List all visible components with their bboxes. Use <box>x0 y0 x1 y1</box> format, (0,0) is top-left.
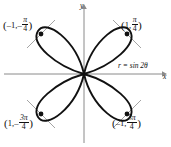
polar-rose-figure: y x r = sin 2θ (–1,–π4) (1,π4) (1,–3π4) … <box>0 0 171 147</box>
fraction-denominator: 4 <box>22 25 28 33</box>
equation-label: r = sin 2θ <box>118 62 148 70</box>
x-axis-label: x <box>163 73 166 81</box>
fraction-denominator: 4 <box>132 25 138 33</box>
paren-close: ) <box>138 19 142 31</box>
theta-sign: – <box>17 20 21 30</box>
r-value: –1, <box>7 20 18 30</box>
theta-fraction: 3π4 <box>127 114 137 131</box>
y-axis-label: y <box>80 2 83 10</box>
fraction-denominator: 4 <box>127 123 137 131</box>
paren-close: ) <box>29 117 33 129</box>
point-top-left <box>39 32 44 37</box>
theta-sign: – <box>14 118 18 128</box>
point-label-top-left: (–1,–π4) <box>3 16 32 33</box>
theta-fraction: π4 <box>132 16 138 33</box>
theta-fraction: π4 <box>22 16 28 33</box>
point-label-bottom-left: (1,–3π4) <box>4 114 33 131</box>
petal-upper-left <box>37 27 84 74</box>
theta-fraction: 3π4 <box>19 114 29 131</box>
petal-lower-left <box>37 74 84 121</box>
point-label-top-right: (1,π4) <box>121 16 142 33</box>
point-label-bottom-right: (–1,3π4) <box>112 114 141 131</box>
fraction-denominator: 4 <box>19 123 29 131</box>
paren-close: ) <box>137 117 141 129</box>
point-bottom-left <box>39 112 44 117</box>
r-value: 1, <box>125 20 131 30</box>
r-value: –1, <box>116 118 127 128</box>
paren-close: ) <box>29 19 33 31</box>
